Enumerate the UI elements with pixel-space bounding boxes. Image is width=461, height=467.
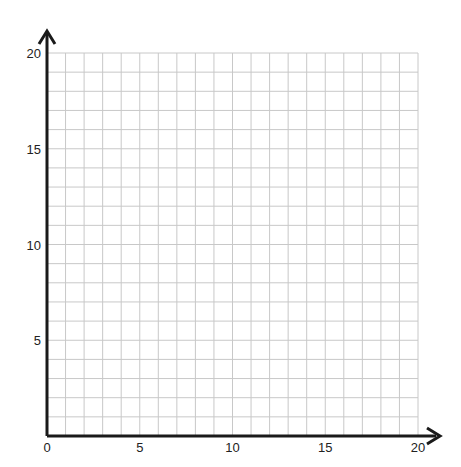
x-tick-label: 10 — [225, 440, 239, 455]
axes — [39, 31, 440, 444]
grid-lines — [47, 53, 418, 436]
y-tick-label: 5 — [34, 333, 41, 348]
x-tick-label: 15 — [318, 440, 332, 455]
coordinate-grid-chart: 051015205101520 — [0, 0, 461, 467]
y-tick-label: 15 — [27, 142, 41, 157]
x-tick-label: 5 — [136, 440, 143, 455]
y-tick-label: 10 — [27, 238, 41, 253]
x-tick-label: 0 — [43, 440, 50, 455]
x-tick-label: 20 — [411, 440, 425, 455]
y-tick-label: 20 — [27, 46, 41, 61]
tick-labels: 051015205101520 — [27, 46, 426, 455]
